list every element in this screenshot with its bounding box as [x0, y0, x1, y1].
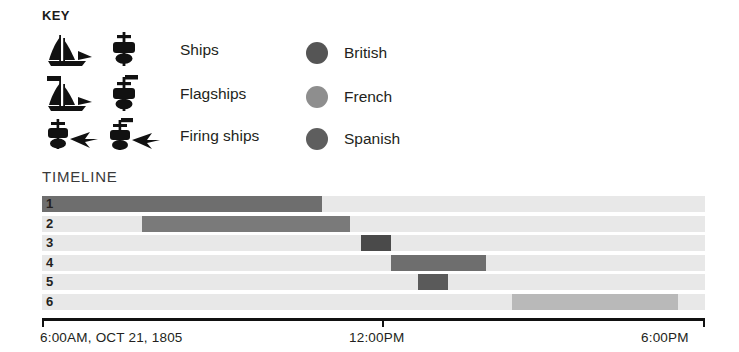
timeline-track-1: 1: [42, 196, 705, 212]
axis-tick-mid: [382, 318, 384, 327]
ship-top-icon: [104, 30, 166, 70]
timeline-row-label-4: 4: [46, 255, 53, 271]
timeline-track-5: 5: [42, 274, 705, 290]
timeline-row-label-2: 2: [46, 216, 53, 232]
key-title: KEY: [42, 8, 70, 23]
timeline-track-4: 4: [42, 255, 705, 271]
key-label-firing-ships: Firing ships: [180, 127, 259, 145]
timeline-bar-2[interactable]: [142, 216, 350, 232]
timeline-track-3: 3: [42, 235, 705, 251]
timeline-row-label-1: 1: [46, 196, 53, 212]
firing-ship-side-icon: [42, 116, 104, 156]
legend-item-french: French: [306, 86, 392, 108]
timeline-title: TIMELINE: [42, 168, 118, 185]
axis-tick-start: [42, 318, 44, 327]
key-label-flagships: Flagships: [180, 85, 246, 103]
timeline-axis-line: [42, 318, 705, 321]
legend-item-british: British: [306, 42, 387, 64]
timeline-row-label-6: 6: [46, 294, 53, 310]
timeline-chart: 123456: [42, 196, 705, 311]
timeline-track-2: 2: [42, 216, 705, 232]
axis-label-end: 6:00PM: [641, 330, 689, 345]
firing-ship-top-icon: [104, 116, 166, 156]
timeline-bar-5[interactable]: [418, 274, 448, 290]
legend-item-spanish: Spanish: [306, 128, 400, 150]
legend-swatch-french: [306, 86, 328, 108]
legend-label-french: French: [344, 88, 392, 106]
ship-side-icon: [42, 30, 104, 70]
flagship-top-icon: [104, 74, 166, 114]
timeline-track-6: 6: [42, 294, 705, 310]
legend-label-british: British: [344, 44, 387, 62]
key-row-flagships: Flagships: [42, 74, 246, 114]
legend-swatch-spanish: [306, 128, 328, 150]
axis-tick-end: [703, 318, 705, 327]
axis-label-start: 6:00AM, OCT 21, 1805: [40, 330, 183, 345]
legend-label-spanish: Spanish: [344, 130, 400, 148]
timeline-row-label-3: 3: [46, 235, 53, 251]
key-row-firing-ships: Firing ships: [42, 116, 259, 156]
flagship-side-icon: [42, 74, 104, 114]
key-row-ships: Ships: [42, 30, 219, 70]
timeline-bar-6[interactable]: [512, 294, 678, 310]
timeline-bar-4[interactable]: [391, 255, 486, 271]
axis-label-mid: 12:00PM: [349, 330, 404, 345]
key-label-ships: Ships: [180, 41, 219, 59]
legend-swatch-british: [306, 42, 328, 64]
timeline-bar-3[interactable]: [361, 235, 391, 251]
timeline-bar-1[interactable]: [42, 196, 322, 212]
timeline-row-label-5: 5: [46, 274, 53, 290]
